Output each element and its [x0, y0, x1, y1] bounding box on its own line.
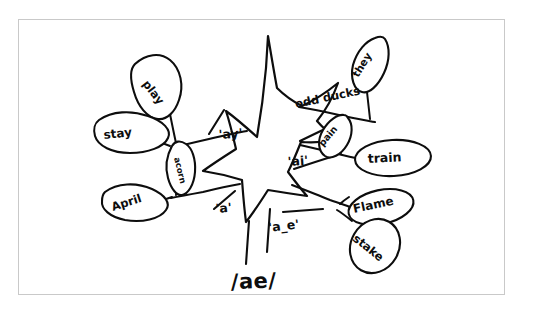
- screenshot-canvas: play stay 'ay' acorn April 'a': [0, 0, 540, 325]
- word-label-stay: stay: [103, 125, 133, 142]
- word-leaf-acorn: acorn: [167, 142, 196, 196]
- word-leaf-april: April: [102, 184, 168, 221]
- spelling-label-a: 'a': [215, 200, 232, 216]
- spelling-label-ay: 'ay': [218, 125, 243, 142]
- branch-a-e: [283, 185, 353, 221]
- handdrawn-diagram: play stay 'ay' acorn April 'a': [0, 0, 540, 325]
- spelling-label-ai: 'ai': [287, 153, 308, 169]
- word-label-train: train: [367, 149, 402, 166]
- spelling-label-a-e: 'a_e': [268, 216, 301, 236]
- word-leaf-pain: pain: [316, 115, 352, 157]
- word-oval-train: train: [354, 138, 432, 178]
- phoneme-title: /ae/: [230, 268, 277, 294]
- word-leaf-play: play: [131, 55, 181, 119]
